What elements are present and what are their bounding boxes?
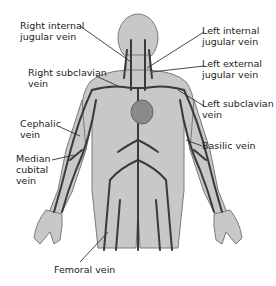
label-left-subclavian-vein: Left subclavian vein <box>202 98 274 120</box>
label-line: Femoral vein <box>54 264 115 275</box>
label-right-internal-jugular-vein: Right internal jugular vein <box>20 20 85 42</box>
label-line: Left subclavian <box>202 98 274 109</box>
label-left-external-jugular-vein: Left external jugular vein <box>202 58 262 80</box>
label-line: vein <box>20 129 61 140</box>
label-line: Right internal <box>20 20 85 31</box>
label-right-subclavian-vein: Right subclavian vein <box>28 67 107 89</box>
label-line: vein <box>202 109 274 120</box>
label-line: jugular vein <box>202 69 262 80</box>
label-line: vein <box>16 175 51 186</box>
label-left-internal-jugular-vein: Left internal jugular vein <box>202 25 259 47</box>
label-line: cubital <box>16 164 51 175</box>
label-line: vein <box>28 78 107 89</box>
label-basilic-vein: Basilic vein <box>202 140 256 151</box>
label-cephalic-vein: Cephalic vein <box>20 118 61 140</box>
label-line: jugular vein <box>20 31 85 42</box>
label-line: Cephalic <box>20 118 61 129</box>
label-line: Left external <box>202 58 262 69</box>
label-line: Median <box>16 153 51 164</box>
label-line: jugular vein <box>202 36 259 47</box>
heart-icon <box>131 100 153 124</box>
label-femoral-vein: Femoral vein <box>54 264 115 275</box>
label-line: Right subclavian <box>28 67 107 78</box>
label-median-cubital-vein: Median cubital vein <box>16 153 51 186</box>
label-line: Basilic vein <box>202 140 256 151</box>
label-line: Left internal <box>202 25 259 36</box>
